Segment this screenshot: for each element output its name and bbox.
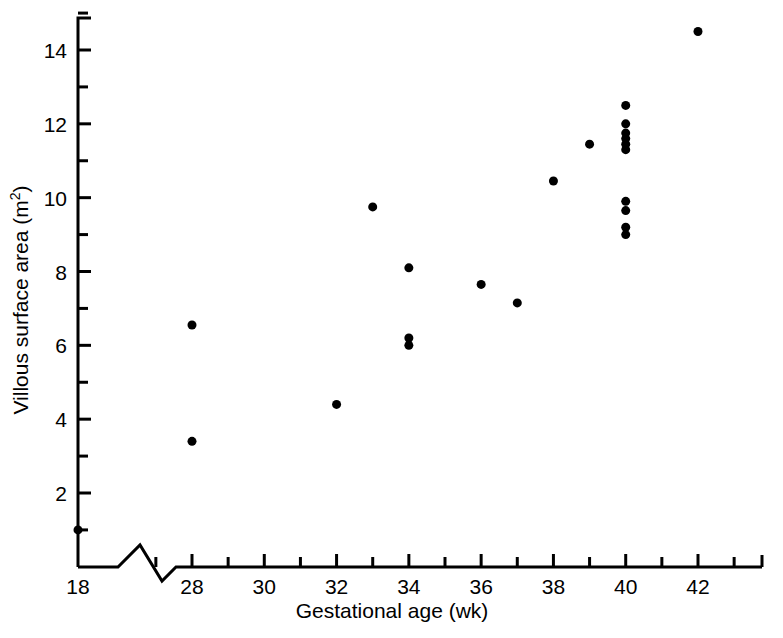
- x-tick-label: 28: [180, 575, 203, 598]
- tick-labels-layer: 2468101214283032343638404218: [44, 39, 710, 598]
- y-tick-label: 8: [55, 261, 67, 284]
- x-tick-label: 32: [325, 575, 348, 598]
- data-point: [549, 177, 558, 186]
- axes-layer: [78, 18, 762, 581]
- data-point: [332, 400, 341, 409]
- y-tick-label: 2: [55, 482, 67, 505]
- y-axis-line: [78, 18, 91, 567]
- y-tick-label: 4: [55, 408, 67, 431]
- data-point: [74, 525, 83, 534]
- y-axis-title: Villous surface area (m2): [7, 185, 32, 414]
- plot-canvas: 2468101214283032343638404218 Gestational…: [0, 0, 783, 638]
- y-tick-label: 12: [44, 113, 67, 136]
- x-tick-label: 30: [253, 575, 276, 598]
- data-point: [621, 119, 630, 128]
- data-point: [404, 341, 413, 350]
- data-point: [621, 145, 630, 154]
- x-tick-label: 36: [469, 575, 492, 598]
- ticks-layer: [78, 13, 734, 567]
- data-point: [585, 140, 594, 149]
- data-point: [404, 263, 413, 272]
- y-tick-label: 14: [44, 39, 68, 62]
- scatter-plot-svg: 2468101214283032343638404218 Gestational…: [0, 0, 783, 638]
- x-tick-label: 18: [66, 575, 89, 598]
- figure-container: 2468101214283032343638404218 Gestational…: [0, 0, 783, 638]
- data-point: [477, 280, 486, 289]
- y-tick-label: 6: [55, 334, 67, 357]
- data-point: [694, 27, 703, 36]
- data-point: [368, 202, 377, 211]
- data-point: [621, 197, 630, 206]
- y-axis-title-superscript: 2: [7, 192, 23, 200]
- data-point: [513, 298, 522, 307]
- data-point: [621, 230, 630, 239]
- y-axis-title-close-paren: ): [9, 185, 32, 192]
- data-point: [621, 206, 630, 215]
- x-tick-label: 42: [686, 575, 709, 598]
- x-axis-title: Gestational age (wk): [296, 599, 489, 622]
- x-tick-label: 34: [397, 575, 421, 598]
- x-tick-label: 38: [542, 575, 565, 598]
- x-tick-label: 40: [614, 575, 637, 598]
- data-point: [188, 437, 197, 446]
- y-tick-label: 10: [44, 187, 67, 210]
- y-axis-title-main: Villous surface area (m: [9, 200, 32, 414]
- data-point: [621, 101, 630, 110]
- data-point: [188, 321, 197, 330]
- data-points-layer: [74, 27, 703, 534]
